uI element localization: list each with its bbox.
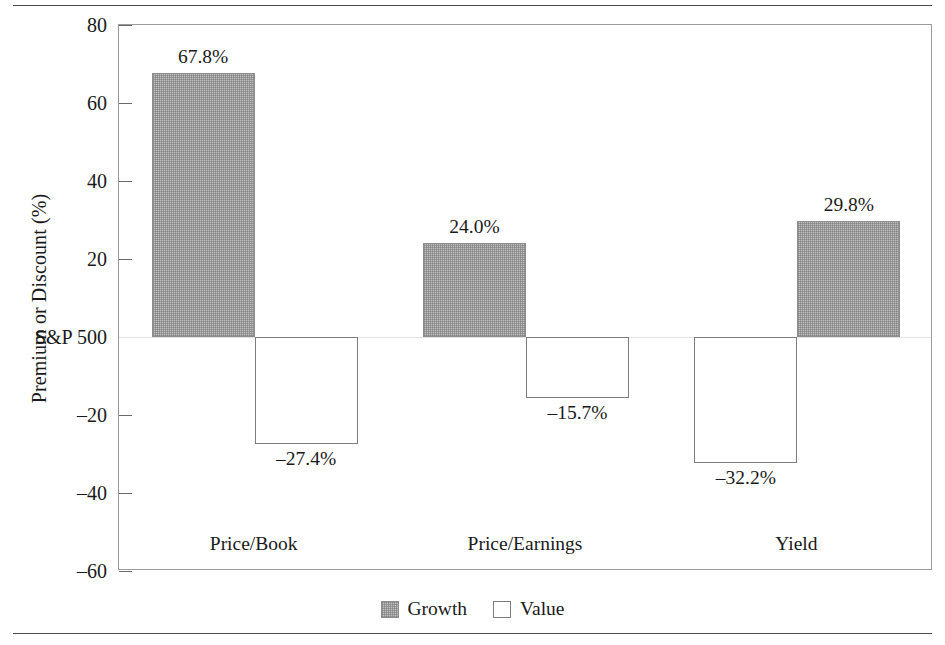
y-axis-tick — [119, 103, 132, 104]
y-axis-tick — [119, 493, 132, 494]
y-axis-tick-label: 60 — [7, 92, 107, 115]
bar-growth-0[interactable] — [152, 73, 255, 337]
bar-value-label: –27.4% — [276, 448, 336, 470]
y-axis-tick — [119, 571, 132, 572]
bar-value-label: –32.2% — [716, 467, 776, 489]
bar-growth-1[interactable] — [423, 243, 526, 337]
y-axis-tick-label: –20 — [7, 404, 107, 427]
y-axis-tick — [119, 25, 132, 26]
legend-label-value: Value — [520, 598, 564, 620]
legend-swatch-growth-icon — [381, 601, 399, 618]
bar-value-label: 67.8% — [178, 46, 228, 68]
legend-label-growth: Growth — [408, 598, 468, 620]
bar-value-0[interactable] — [255, 337, 358, 444]
legend-swatch-value-icon — [493, 601, 511, 618]
bottom-rule — [13, 633, 932, 634]
bar-value-1[interactable] — [526, 337, 629, 398]
x-axis-category-label: Yield — [775, 533, 817, 555]
y-axis-title: Premium or Discount (%) — [28, 154, 51, 444]
y-axis-tick-label: 80 — [7, 14, 107, 37]
bar-value-label: 29.8% — [824, 194, 874, 216]
chart-figure: Premium or Discount (%) 80604020S&P 500–… — [0, 0, 945, 645]
y-axis-tick-label: 20 — [7, 248, 107, 271]
y-axis-tick-label: 40 — [7, 170, 107, 193]
y-axis-tick-label: S&P 500 — [7, 326, 107, 349]
zero-baseline — [119, 337, 931, 338]
bar-growth-2[interactable] — [797, 221, 900, 337]
y-axis-tick-label: –40 — [7, 482, 107, 505]
x-axis-category-label: Price/Book — [210, 533, 298, 555]
y-axis-tick — [119, 259, 132, 260]
bar-value-label: 24.0% — [449, 216, 499, 238]
y-axis-tick-label: –60 — [7, 560, 107, 583]
x-axis-category-label: Price/Earnings — [468, 533, 583, 555]
chart-legend: Growth Value — [0, 598, 945, 620]
bar-value-2[interactable] — [694, 337, 797, 463]
bar-value-label: –15.7% — [547, 402, 607, 424]
legend-item-growth[interactable]: Growth — [381, 598, 468, 620]
legend-item-value[interactable]: Value — [493, 598, 564, 620]
y-axis-tick — [119, 415, 132, 416]
y-axis-tick — [119, 181, 132, 182]
plot-area: 80604020S&P 500–20–40–6067.8%–27.4%24.0%… — [118, 24, 932, 570]
top-rule — [13, 5, 932, 6]
